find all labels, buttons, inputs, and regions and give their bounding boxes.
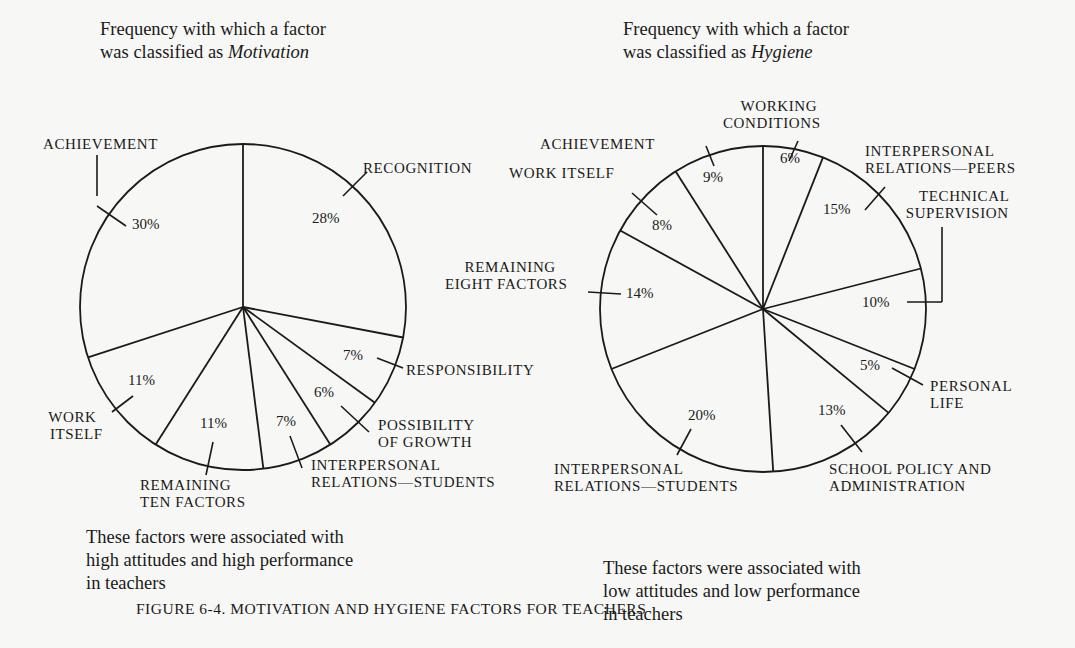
motivation-footer-line2: high attitudes and high performance xyxy=(86,549,353,572)
hygiene-footer-line1: These factors were associated with xyxy=(603,557,861,580)
label-growth-line2: OF GROWTH xyxy=(378,434,475,451)
label-remaining: REMAINING TEN FACTORS xyxy=(140,477,246,511)
label-irs-hygiene-line2: RELATIONS—STUDENTS xyxy=(554,478,738,495)
pct-irs-hygiene: 20% xyxy=(688,407,716,424)
figure-caption: FIGURE 6-4. MOTIVATION AND HYGIENE FACTO… xyxy=(136,600,646,618)
hygiene-heading-line2: was classified as Hygiene xyxy=(623,41,849,64)
label-tech-line1: TECHNICAL xyxy=(905,188,1009,205)
motivation-footer-line1: These factors were associated with xyxy=(86,526,353,549)
label-work-line1: WORK xyxy=(42,409,103,426)
label-responsibility: RESPONSIBILITY xyxy=(406,362,534,379)
label-remaining-eight: REMAINING EIGHT FACTORS xyxy=(445,259,567,293)
label-working-line1: WORKING xyxy=(723,98,821,115)
motivation-heading-line1: Frequency with which a factor xyxy=(100,18,326,41)
pct-working-conditions: 6% xyxy=(780,150,800,167)
label-recognition: RECOGNITION xyxy=(363,160,472,177)
label-personal-line2: LIFE xyxy=(930,395,1012,412)
hygiene-heading: Frequency with which a factor was classi… xyxy=(623,18,849,64)
heading-prefix: was classified as xyxy=(100,42,228,62)
motivation-heading-line2: was classified as Motivation xyxy=(100,41,326,64)
pct-work-itself-hygiene: 8% xyxy=(652,217,672,234)
label-remaining8-line2: EIGHT FACTORS xyxy=(445,276,567,293)
heading-emphasis: Hygiene xyxy=(751,42,813,62)
motivation-heading: Frequency with which a factor was classi… xyxy=(100,18,326,64)
pct-growth: 6% xyxy=(314,384,334,401)
pct-technical-supervision: 10% xyxy=(862,294,890,311)
label-school-line1: SCHOOL POLICY AND xyxy=(829,461,991,478)
label-peers-line1: INTERPERSONAL xyxy=(865,143,1016,160)
label-personal-line1: PERSONAL xyxy=(930,378,1012,395)
label-irs-hygiene: INTERPERSONAL RELATIONS—STUDENTS xyxy=(554,461,738,495)
label-growth-line1: POSSIBILITY xyxy=(378,417,475,434)
label-personal-life: PERSONAL LIFE xyxy=(930,378,1012,412)
pct-peers: 15% xyxy=(823,201,851,218)
label-school-line2: ADMINISTRATION xyxy=(829,478,991,495)
pct-recognition: 28% xyxy=(312,210,340,227)
label-achievement: ACHIEVEMENT xyxy=(43,136,158,153)
label-achievement-hygiene: ACHIEVEMENT xyxy=(540,136,655,153)
pct-personal-life: 5% xyxy=(860,357,880,374)
label-remaining-line1: REMAINING xyxy=(140,477,246,494)
heading-prefix: was classified as xyxy=(623,42,751,62)
pct-achievement: 30% xyxy=(132,216,160,233)
label-technical-supervision: TECHNICAL SUPERVISION xyxy=(905,188,1009,222)
label-work-itself-hygiene: WORK ITSELF xyxy=(509,165,614,182)
label-irs-line2: RELATIONS—STUDENTS xyxy=(311,474,495,491)
hygiene-heading-line1: Frequency with which a factor xyxy=(623,18,849,41)
label-growth: POSSIBILITY OF GROWTH xyxy=(378,417,475,451)
label-work-line2: ITSELF xyxy=(42,426,103,443)
hygiene-footer-line2: low attitudes and low performance xyxy=(603,580,861,603)
pct-school-policy: 13% xyxy=(818,402,846,419)
label-peers-line2: RELATIONS—PEERS xyxy=(865,160,1016,177)
label-peers: INTERPERSONAL RELATIONS—PEERS xyxy=(865,143,1016,177)
label-remaining-line2: TEN FACTORS xyxy=(140,494,246,511)
label-work: WORK ITSELF xyxy=(42,409,103,443)
label-irs-line1: INTERPERSONAL xyxy=(311,457,495,474)
motivation-footer: These factors were associated with high … xyxy=(86,526,353,595)
pct-remaining: 11% xyxy=(200,415,227,432)
label-tech-line2: SUPERVISION xyxy=(905,205,1009,222)
hygiene-footer: These factors were associated with low a… xyxy=(603,557,861,626)
label-irs-hygiene-line1: INTERPERSONAL xyxy=(554,461,738,478)
pct-achievement-hygiene: 9% xyxy=(703,169,723,186)
pct-remaining-eight: 14% xyxy=(626,285,654,302)
label-school-policy: SCHOOL POLICY AND ADMINISTRATION xyxy=(829,461,991,495)
pct-responsibility: 7% xyxy=(343,347,363,364)
label-remaining8-line1: REMAINING xyxy=(445,259,567,276)
pct-irs: 7% xyxy=(276,413,296,430)
label-working-line2: CONDITIONS xyxy=(723,115,821,132)
motivation-footer-line3: in teachers xyxy=(86,572,353,595)
label-irs: INTERPERSONAL RELATIONS—STUDENTS xyxy=(311,457,495,491)
label-working-conditions: WORKING CONDITIONS xyxy=(723,98,821,132)
heading-emphasis: Motivation xyxy=(228,42,309,62)
hygiene-footer-line3: in teachers xyxy=(603,603,861,626)
pct-work: 11% xyxy=(128,372,155,389)
